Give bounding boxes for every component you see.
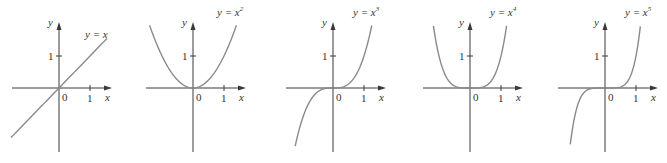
exponent: 3	[375, 5, 380, 13]
y-axis-label: y	[181, 16, 187, 28]
function-label: y = x	[84, 28, 108, 40]
function-label: y = x4	[489, 5, 517, 18]
y-axis-label: y	[47, 16, 53, 28]
y-tick-label-1: 1	[322, 50, 328, 62]
y-axis-label: y	[321, 16, 327, 28]
graph-panel-5: 011xyy = x5	[558, 5, 658, 152]
x-axis-arrow-icon	[650, 86, 658, 91]
y-tick-label-1: 1	[182, 50, 188, 62]
x-tick-label-0: 0	[196, 91, 202, 103]
graph-panel-4: 011xyy = x4	[423, 5, 523, 152]
y-axis-arrow-icon	[191, 22, 196, 30]
x-axis-arrow-icon	[515, 86, 523, 91]
x-tick-label-1: 1	[361, 92, 367, 104]
x-axis-label: x	[104, 91, 110, 103]
y-axis-label: y	[458, 16, 464, 28]
graph-panel-2: 011xyy = x2	[146, 5, 246, 152]
x-tick-label-1: 1	[221, 92, 227, 104]
graph-panel-3: 011xyy = x3	[286, 5, 386, 152]
y-tick-label-1: 1	[459, 50, 465, 62]
graph-panel-1: 011xyy = x	[11, 16, 112, 152]
exponent: 5	[648, 5, 652, 13]
x-axis-arrow-icon	[238, 86, 246, 91]
exponent: 2	[240, 5, 244, 13]
x-tick-label-1: 1	[633, 92, 639, 104]
x-tick-label-0: 0	[608, 91, 614, 103]
x-tick-label-0: 0	[473, 91, 479, 103]
y-axis-arrow-icon	[468, 22, 473, 30]
x-axis-label: x	[515, 91, 521, 103]
y-tick-label-1: 1	[48, 50, 54, 62]
function-label: y = x5	[624, 5, 652, 18]
x-axis-label: x	[650, 91, 656, 103]
function-label: y = x3	[352, 5, 380, 18]
y-axis-arrow-icon	[331, 22, 336, 30]
x-axis-label: x	[378, 91, 384, 103]
function-label: y = x2	[216, 5, 244, 18]
x-axis-label: x	[238, 91, 244, 103]
exponent: 4	[513, 5, 517, 13]
x-tick-label-1: 1	[498, 92, 504, 104]
x-axis-arrow-icon	[104, 86, 112, 91]
x-axis-arrow-icon	[378, 86, 386, 91]
power-functions-figure: 011xyy = x011xyy = x2011xyy = x3011xyy =…	[0, 0, 667, 163]
y-axis-arrow-icon	[603, 22, 608, 30]
y-axis-arrow-icon	[57, 22, 62, 30]
y-axis-label: y	[593, 16, 599, 28]
y-tick-label-1: 1	[594, 50, 600, 62]
x-tick-label-0: 0	[62, 91, 68, 103]
x-tick-label-1: 1	[87, 92, 93, 104]
x-tick-label-0: 0	[336, 91, 342, 103]
